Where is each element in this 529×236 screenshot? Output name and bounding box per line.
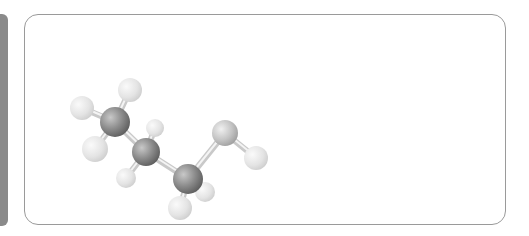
atom-h3 [82, 136, 108, 162]
atom-h4 [146, 119, 164, 137]
atom-c2 [132, 138, 160, 166]
atoms-group [70, 78, 268, 220]
bonds-group [82, 89, 256, 208]
atom-h6 [168, 196, 192, 220]
atom-h1 [70, 96, 94, 120]
atom-c1 [100, 107, 130, 137]
atom-h5 [116, 168, 136, 188]
atom-h2 [118, 78, 142, 102]
molecule-diagram [0, 0, 529, 236]
atom-h8 [244, 146, 268, 170]
atom-o [212, 120, 238, 146]
atom-c3 [173, 164, 203, 194]
